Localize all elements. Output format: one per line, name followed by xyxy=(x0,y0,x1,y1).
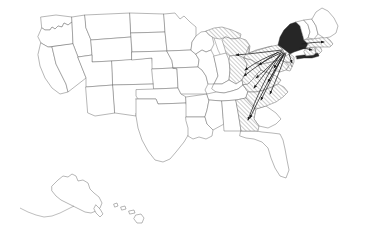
state-kansas[interactable] xyxy=(152,68,178,89)
state-north-dakota[interactable] xyxy=(130,13,165,33)
state-hawaii-oahu[interactable] xyxy=(121,206,126,210)
state-hawaii-maui[interactable] xyxy=(129,210,135,214)
state-hawaii-kauai[interactable] xyxy=(114,203,118,207)
state-wyoming[interactable] xyxy=(91,37,132,62)
state-arizona[interactable] xyxy=(86,85,115,116)
us-map-container: United States Migration Flow Map xyxy=(0,0,365,247)
state-colorado[interactable] xyxy=(112,58,154,85)
state-indiana[interactable] xyxy=(214,53,230,84)
state-montana[interactable] xyxy=(85,13,131,40)
state-arkansas[interactable] xyxy=(186,94,209,117)
us-map-svg xyxy=(0,0,365,247)
state-south-dakota[interactable] xyxy=(131,32,167,52)
